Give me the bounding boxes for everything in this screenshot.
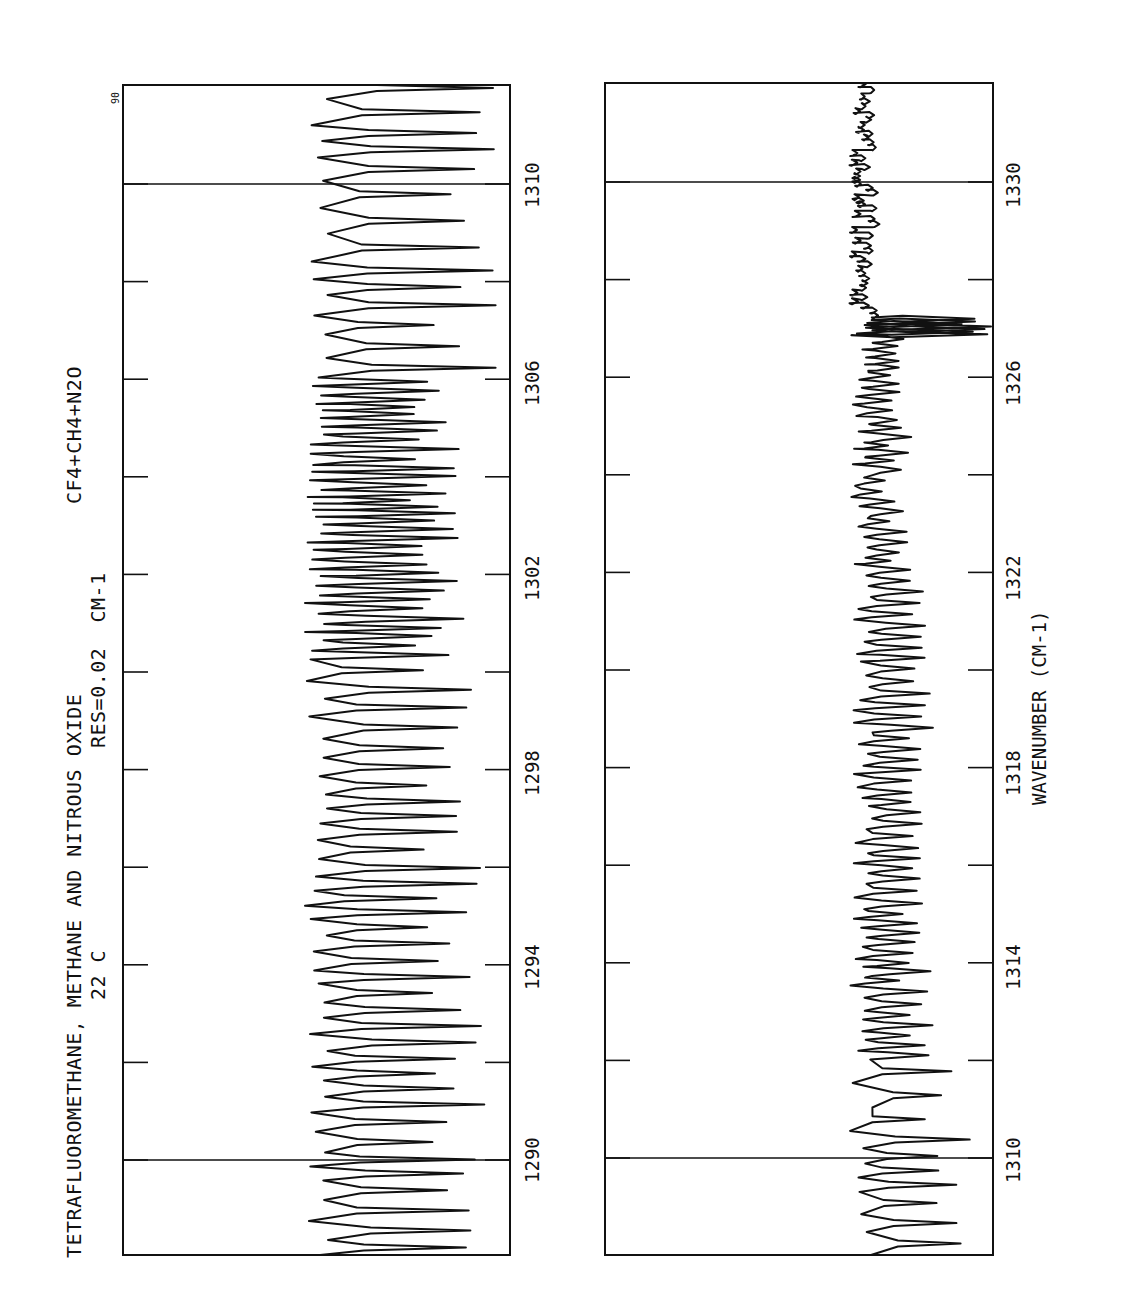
right-spectrum-trace bbox=[850, 83, 992, 1255]
right-tick-label-1322: 1322 bbox=[1002, 555, 1024, 601]
temperature-label: 22 C bbox=[86, 950, 110, 1000]
right-tick-label-1330: 1330 bbox=[1002, 162, 1024, 208]
left-tick-label-1294: 1294 bbox=[521, 944, 543, 990]
left-tick-label-1290: 1290 bbox=[521, 1137, 543, 1183]
right-tick-label-1310: 1310 bbox=[1002, 1137, 1024, 1183]
figure-title: TETRAFLUOROMETHANE, METHANE AND NITROUS … bbox=[62, 694, 86, 1258]
resolution-label: RES=0.02 CM-1 bbox=[86, 572, 110, 748]
right-tick-label-1318: 1318 bbox=[1002, 750, 1024, 796]
right-panel bbox=[605, 83, 993, 1255]
left-panel bbox=[123, 85, 510, 1255]
left-spectrum-trace bbox=[305, 85, 496, 1255]
right-panel-frame bbox=[605, 83, 993, 1255]
sample-label: CF4+CH4+N2O bbox=[62, 366, 86, 504]
left-tick-label-1298: 1298 bbox=[521, 750, 543, 796]
right-tick-label-1326: 1326 bbox=[1002, 360, 1024, 406]
spectrum-figure: TETRAFLUOROMETHANE, METHANE AND NITROUS … bbox=[0, 0, 1123, 1299]
left-tick-marks bbox=[123, 184, 510, 1160]
right-tick-label-1314: 1314 bbox=[1002, 944, 1024, 990]
left-tick-label-1302: 1302 bbox=[521, 555, 543, 601]
left-tick-label-1310: 1310 bbox=[521, 162, 543, 208]
corner-mark: 90 bbox=[110, 92, 121, 104]
spectrum-plot-canvas bbox=[0, 0, 1123, 1299]
left-tick-label-1306: 1306 bbox=[521, 360, 543, 406]
x-axis-label: WAVENUMBER (CM-1) bbox=[1028, 611, 1050, 805]
